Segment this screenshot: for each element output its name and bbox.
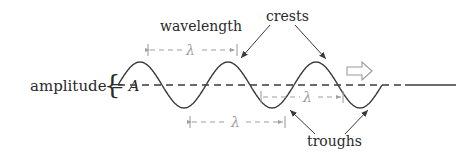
lambda-label-bottom: λ [230,114,240,130]
lambda-label-top: λ [185,42,195,58]
wavelength-measure-middle [261,91,343,103]
crests-label: crests [266,8,309,24]
crest-pointer-left [241,25,270,58]
trough-pointer-right [345,110,368,134]
amplitude-label: amplitude = A [30,77,140,95]
troughs-label: troughs [307,133,362,149]
propagation-direction-arrow-icon [347,62,372,80]
trough-pointer-left [290,110,315,134]
wavelength-label: wavelength [160,18,242,34]
wave-diagram: amplitude = A { λ λ λ wavelength crests … [0,0,471,157]
amplitude-symbol: A [127,77,140,95]
crest-pointer-right [295,25,326,59]
lambda-label-middle: λ [302,89,312,105]
